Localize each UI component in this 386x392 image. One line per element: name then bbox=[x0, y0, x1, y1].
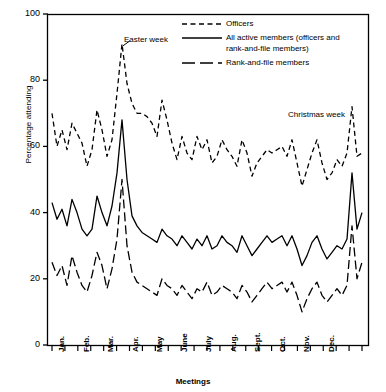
annotation-christmas-week: Christmas week bbox=[288, 110, 345, 119]
legend-key-long-dash-icon bbox=[180, 57, 226, 68]
legend-label-all-active-members: All active members (officers and rank-an… bbox=[226, 32, 340, 54]
x-tick-label-month: Mar. bbox=[106, 336, 115, 352]
y-tick-label: 100 bbox=[14, 8, 40, 18]
x-tick-label-month: Oct. bbox=[278, 336, 287, 352]
x-tick-label-month: Sept. bbox=[253, 332, 262, 352]
legend-item-officers: Officers bbox=[180, 18, 340, 29]
legend-key-solid-icon bbox=[180, 32, 226, 43]
x-tick-label-month: May bbox=[155, 336, 164, 352]
x-tick-label-month: June bbox=[180, 333, 189, 352]
legend-item-rank-and-file: Rank-and-file members bbox=[180, 57, 340, 68]
chart-legend: Officers All active members (officers an… bbox=[180, 18, 340, 71]
x-tick-label-month: Aug. bbox=[229, 334, 238, 352]
chart-figure: Percentage attending Meetings 0204060801… bbox=[0, 0, 386, 392]
x-tick-label-month: Jan. bbox=[57, 336, 66, 352]
x-tick-label-month: Nov. bbox=[302, 335, 311, 352]
y-tick-label: 0 bbox=[14, 339, 40, 349]
x-axis-label: Meetings bbox=[0, 377, 386, 386]
y-tick-label: 80 bbox=[14, 74, 40, 84]
x-tick-label-month: Apr. bbox=[131, 336, 140, 352]
y-tick-label: 40 bbox=[14, 207, 40, 217]
legend-item-all-active-members: All active members (officers and rank-an… bbox=[180, 32, 340, 54]
annotation-easter-week: Easter week bbox=[124, 35, 168, 44]
legend-label-rank-and-file: Rank-and-file members bbox=[226, 57, 309, 68]
legend-key-dashed-icon bbox=[180, 18, 226, 29]
y-tick-label: 20 bbox=[14, 273, 40, 283]
legend-label-officers: Officers bbox=[226, 18, 253, 29]
y-tick-label: 60 bbox=[14, 140, 40, 150]
data-series-group bbox=[52, 44, 362, 312]
x-tick-label-month: Feb. bbox=[82, 336, 91, 352]
x-tick-label-month: July bbox=[204, 336, 213, 352]
x-tick-label-month: Dec. bbox=[327, 335, 336, 352]
